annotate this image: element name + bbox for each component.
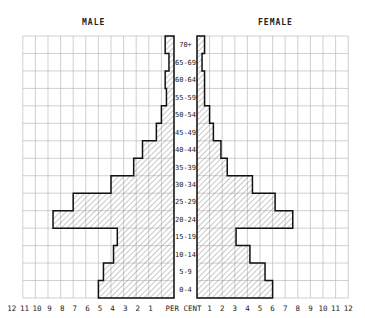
male-bar: [143, 141, 175, 158]
female-bar: [197, 228, 236, 245]
x-tick-female: 11: [331, 304, 340, 313]
female-bar: [197, 211, 293, 228]
age-group-label: 35-39: [175, 164, 196, 172]
age-group-label: 65-69: [175, 59, 196, 67]
x-tick-male: 12: [7, 304, 16, 313]
female-bar: [197, 53, 202, 70]
x-tick-female: 3: [233, 304, 238, 313]
x-tick-female: 6: [270, 304, 275, 313]
x-tick-female: 4: [245, 304, 250, 313]
x-tick-male: 8: [60, 304, 65, 313]
male-bar: [98, 281, 174, 298]
female-bar: [197, 193, 275, 210]
female-bar: [197, 176, 252, 193]
x-tick-male: 6: [85, 304, 90, 313]
age-group-label: 45-49: [175, 129, 196, 137]
x-tick-female: 12: [344, 304, 353, 313]
x-tick-female: 1: [207, 304, 212, 313]
female-bar: [197, 36, 205, 53]
male-bar: [165, 36, 174, 53]
x-tick-male: 10: [32, 304, 42, 313]
x-tick-female: 8: [296, 304, 301, 313]
female-bar: [197, 263, 265, 280]
age-group-label: 50-54: [175, 111, 196, 119]
x-axis-ticks: 112233445566778899101011111212PER CENT: [7, 304, 352, 313]
male-bar: [111, 176, 174, 193]
x-tick-male: 2: [136, 304, 141, 313]
x-tick-male: 4: [110, 304, 115, 313]
female-bar: [197, 246, 250, 263]
x-tick-male: 5: [98, 304, 103, 313]
x-tick-male: 9: [47, 304, 52, 313]
x-tick-male: 3: [123, 304, 128, 313]
bars: [53, 36, 293, 298]
x-tick-female: 2: [220, 304, 225, 313]
age-group-label: 20-24: [175, 216, 196, 224]
age-group-label: 40-44: [175, 146, 196, 154]
male-bar: [161, 106, 174, 123]
age-group-label: 5-9: [179, 268, 192, 276]
female-bar: [197, 123, 213, 140]
x-tick-male: 7: [73, 304, 78, 313]
population-pyramid-chart: 70+65-6960-6455-5950-5445-4940-4435-3930…: [0, 0, 365, 318]
x-tick-male: 11: [20, 304, 29, 313]
female-bar: [197, 106, 210, 123]
male-bar: [114, 246, 174, 263]
female-bar: [197, 281, 273, 298]
male-bar: [156, 123, 174, 140]
age-labels: 70+65-6960-6455-5950-5445-4940-4435-3930…: [175, 41, 196, 294]
male-bar: [165, 71, 174, 88]
female-bar: [197, 141, 221, 158]
male-bar: [134, 158, 174, 175]
x-tick-female: 5: [258, 304, 263, 313]
age-group-label: 25-29: [175, 198, 196, 206]
male-bar: [169, 53, 174, 70]
male-bar: [53, 211, 174, 228]
x-tick-female: 9: [308, 304, 313, 313]
female-bar: [197, 88, 205, 105]
x-axis-label: PER CENT: [165, 304, 202, 313]
male-bar: [117, 228, 174, 245]
x-tick-male: 1: [148, 304, 153, 313]
x-tick-female: 7: [283, 304, 288, 313]
male-bar: [103, 263, 174, 280]
male-bar: [73, 193, 174, 210]
age-group-label: 15-19: [175, 233, 196, 241]
male-bar: [166, 88, 174, 105]
age-group-label: 30-34: [175, 181, 196, 189]
age-group-label: 55-59: [175, 94, 196, 102]
age-group-label: 60-64: [175, 76, 196, 84]
age-group-label: 0-4: [179, 286, 192, 294]
x-tick-female: 10: [318, 304, 328, 313]
age-group-label: 70+: [179, 41, 192, 49]
age-group-label: 10-14: [175, 251, 196, 259]
female-bar: [197, 158, 227, 175]
female-bar: [197, 71, 205, 88]
